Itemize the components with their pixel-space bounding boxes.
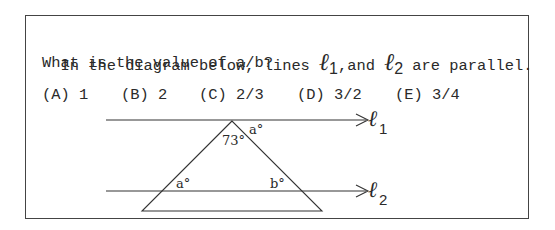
- label-l2: ℓ: [368, 177, 378, 202]
- angle-lower-right-b: b°: [270, 176, 285, 191]
- angle-lower-left-a: a°: [176, 176, 190, 191]
- label-l1: ℓ: [368, 106, 378, 131]
- label-l2-subscript: 2: [379, 191, 387, 208]
- label-l1-subscript: 1: [379, 120, 387, 137]
- angle-apex-73: 73°: [222, 133, 245, 148]
- geometry-diagram: ℓ 1 ℓ 2 73° a° a° b°: [0, 0, 555, 230]
- angle-top-right-a: a°: [249, 122, 263, 137]
